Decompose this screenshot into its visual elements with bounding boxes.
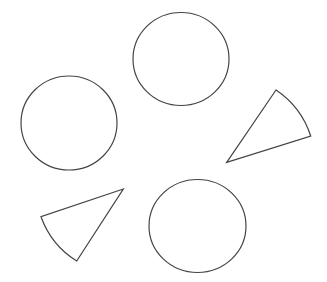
circle-bottom [149, 180, 246, 273]
sector-left [41, 189, 123, 261]
diagram-canvas [0, 0, 327, 282]
sector-right [227, 90, 311, 162]
circle-left [21, 76, 117, 170]
circle-top [133, 13, 229, 106]
